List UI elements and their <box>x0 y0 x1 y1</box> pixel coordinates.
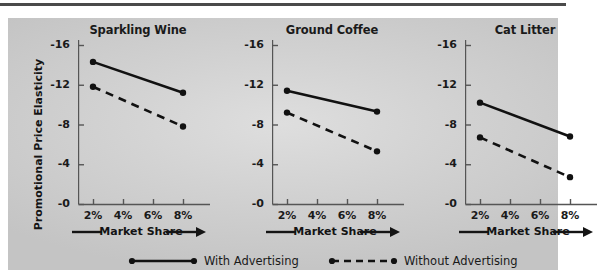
y-tick-label: -0 <box>36 197 70 210</box>
data-point-marker <box>180 90 186 96</box>
x-tick-label: 8% <box>550 209 590 222</box>
x-axis-caption-group: Market Share <box>457 224 599 240</box>
x-axis-caption: Market Share <box>70 225 212 238</box>
y-tick-label: -0 <box>423 197 457 210</box>
legend-label-without-advertising: Without Advertising <box>404 254 518 268</box>
plot-area <box>465 18 599 210</box>
plot-area <box>272 18 406 210</box>
y-tick-label: -12 <box>423 78 457 91</box>
x-axis-caption: Market Share <box>264 225 406 238</box>
y-tick-label: -16 <box>36 38 70 51</box>
data-point-marker <box>477 99 483 105</box>
x-tick-label: 8% <box>163 209 203 222</box>
without-advertising-line-icon <box>328 255 398 267</box>
data-line-without-advertising <box>93 87 183 127</box>
data-point-marker <box>567 174 573 180</box>
y-tick-label: -4 <box>230 157 264 170</box>
y-tick-label: -12 <box>230 78 264 91</box>
top-divider-rule <box>0 3 566 6</box>
x-tick-label: 8% <box>357 209 397 222</box>
x-axis-caption-group: Market Share <box>264 224 406 240</box>
x-axis-caption-group: Market Share <box>70 224 212 240</box>
y-tick-label: -8 <box>230 118 264 131</box>
y-axis-title: Promotional Price Elasticity <box>32 45 45 245</box>
plot-area <box>78 18 212 210</box>
data-line-without-advertising <box>480 137 570 177</box>
x-axis-caption: Market Share <box>457 225 599 238</box>
data-point-marker <box>374 148 380 154</box>
y-tick-label: -16 <box>423 38 457 51</box>
y-tick-label: -0 <box>230 197 264 210</box>
data-point-marker <box>90 59 96 65</box>
data-point-marker <box>90 84 96 90</box>
with-advertising-line-icon <box>128 255 198 267</box>
data-line-without-advertising <box>287 113 377 152</box>
y-tick-label: -8 <box>423 118 457 131</box>
y-tick-label: -4 <box>36 157 70 170</box>
data-point-marker <box>567 133 573 139</box>
data-point-marker <box>477 134 483 140</box>
data-point-marker <box>284 109 290 115</box>
data-line-with-advertising <box>480 103 570 137</box>
y-tick-label: -4 <box>423 157 457 170</box>
data-point-marker <box>284 88 290 94</box>
y-tick-label: -16 <box>230 38 264 51</box>
chart-panel: Promotional Price Elasticity Sparkling W… <box>8 18 558 270</box>
legend-label-with-advertising: With Advertising <box>204 254 299 268</box>
data-line-with-advertising <box>93 62 183 93</box>
y-tick-label: -12 <box>36 78 70 91</box>
data-point-marker <box>180 123 186 129</box>
data-line-with-advertising <box>287 91 377 112</box>
data-point-marker <box>374 108 380 114</box>
y-tick-label: -8 <box>36 118 70 131</box>
